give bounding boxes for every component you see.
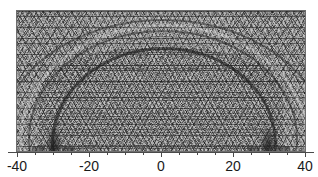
x-axis-tick-label: -20 (79, 157, 99, 175)
x-axis-tick (215, 152, 216, 155)
x-axis-tick (53, 152, 54, 155)
x-axis-tick (251, 152, 252, 155)
x-axis-tick-label: 20 (225, 157, 241, 175)
mesh-top-shading (16, 10, 306, 17)
x-axis-tick-label: 40 (297, 157, 313, 175)
x-axis-tick-label: -40 (7, 157, 27, 175)
x-axis-tick (143, 152, 144, 155)
x-axis-tick (197, 152, 198, 155)
x-axis-tick (287, 152, 288, 155)
x-axis-tick (269, 152, 270, 155)
x-axis-tick (35, 152, 36, 155)
x-axis-tick (71, 152, 72, 155)
mesh-plot-area (16, 10, 306, 152)
refinement-source-left-icon (46, 126, 62, 152)
x-axis-tick-label: 0 (157, 157, 165, 175)
x-axis-tick (107, 152, 108, 155)
x-axis-tick (125, 152, 126, 155)
refinement-source-right-icon (260, 126, 276, 152)
mesh-figure: -40-2002040 (0, 0, 318, 177)
x-axis-labels: -40-2002040 (0, 157, 318, 177)
x-axis-tick (179, 152, 180, 155)
